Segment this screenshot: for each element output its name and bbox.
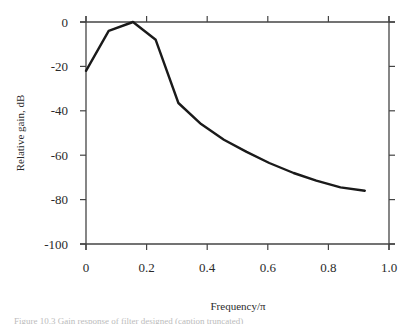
data-series [86,22,365,191]
y-tick-label: -100 [44,237,68,252]
gain-curve [86,22,365,191]
x-tick-label: 0 [83,260,90,275]
x-tick-label: 0.8 [320,260,336,275]
x-tick-label: 0.6 [260,260,277,275]
y-tick-label: -80 [51,192,68,207]
axis-ticks [80,16,395,250]
y-tick-labels: 0-20-40-60-80-100 [44,15,68,252]
x-tick-labels: 00.20.40.60.81.0 [83,260,397,275]
plot-frame [80,16,395,250]
x-tick-label: 0.2 [138,260,154,275]
y-tick-label: 0 [62,15,69,30]
y-tick-label: -20 [51,59,68,74]
x-axis-label: Frequency/π [210,300,265,312]
y-tick-label: -40 [51,103,68,118]
x-tick-label: 0.4 [199,260,216,275]
y-axis-label: Relative gain, dB [14,95,26,172]
y-tick-label: -60 [51,148,68,163]
figure-caption: Figure 10.3 Gain response of filter desi… [14,316,394,324]
x-tick-label: 1.0 [381,260,397,275]
